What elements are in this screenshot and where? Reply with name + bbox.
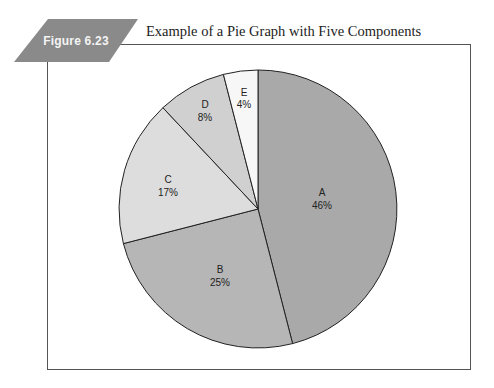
slice-b-value: 25%	[210, 277, 230, 288]
slice-c-value: 17%	[158, 187, 178, 198]
slice-d-value: 8%	[198, 112, 213, 123]
slice-b-name: B	[217, 264, 224, 275]
slice-d-name: D	[201, 99, 208, 110]
slice-a-value: 46%	[312, 200, 332, 211]
pie-chart: A 46% B 25% C 17% D 8% E 4%	[0, 0, 494, 388]
slice-c-name: C	[164, 174, 171, 185]
slice-e-value: 4%	[237, 99, 252, 110]
slice-a-name: A	[319, 187, 326, 198]
slice-e-name: E	[241, 87, 248, 98]
